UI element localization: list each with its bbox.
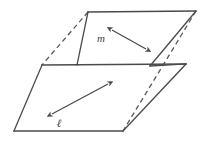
figure-background <box>0 0 204 142</box>
figure-canvas: m ℓ <box>0 0 204 142</box>
geometry-figure: m ℓ <box>0 0 204 142</box>
line-m-label: m <box>97 32 105 44</box>
line-l-label: ℓ <box>57 117 62 129</box>
